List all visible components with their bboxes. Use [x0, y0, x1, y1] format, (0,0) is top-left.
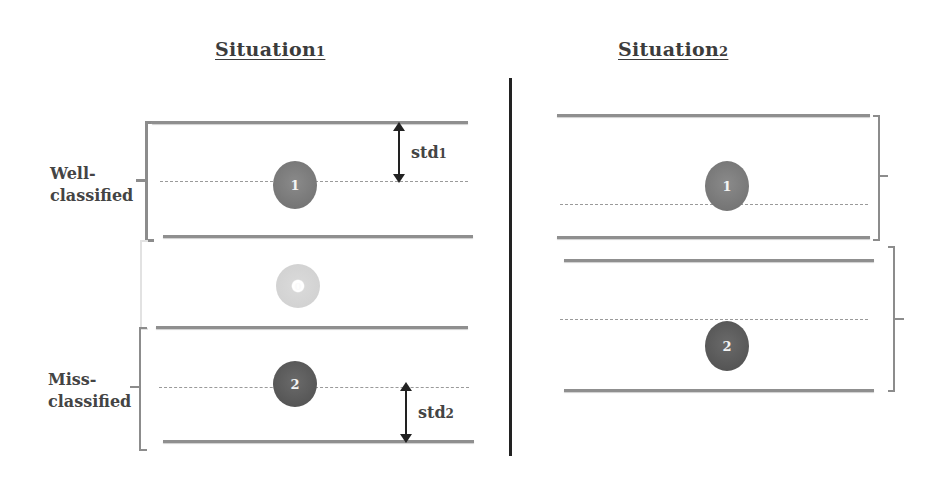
miss-classified-line2: classified — [48, 391, 131, 413]
s2-cluster1-bracket — [873, 115, 880, 241]
s2-cluster2-mean-line — [560, 319, 868, 320]
s1-cluster-1-circle: 1 — [273, 161, 317, 209]
std2-text: std — [418, 403, 446, 422]
s1-cluster-1-label: 1 — [290, 178, 299, 193]
s2-cluster2-lower-bound — [564, 389, 874, 392]
s2-cluster1-bracket-tick — [880, 175, 888, 177]
situation2-title-text: Situation — [618, 38, 719, 60]
std1-sub: 1 — [439, 147, 447, 161]
s2-cluster-2-label: 2 — [722, 339, 731, 354]
std2-arrow-down-head — [400, 434, 412, 443]
miss-classified-label: Miss- classified — [48, 369, 131, 413]
std2-arrow — [405, 386, 407, 440]
s1-cluster-0-label: 0 — [295, 281, 302, 292]
s2-cluster1-upper-bound — [557, 114, 870, 117]
s1-cluster1-upper-bound — [152, 121, 468, 124]
s2-cluster-2-circle: 2 — [705, 321, 749, 371]
well-classified-line1: Well- — [50, 163, 133, 185]
std1-arrow-down-head — [393, 174, 405, 183]
situation1-title-sub: 1 — [316, 44, 325, 59]
situation1-title: Situation1 — [215, 38, 325, 60]
s1-cluster-2-circle: 2 — [273, 361, 317, 407]
std2-arrow-up-head — [400, 382, 412, 391]
std1-label: std1 — [411, 143, 447, 162]
well-classified-label: Well- classified — [50, 163, 133, 207]
std2-sub: 2 — [446, 407, 454, 421]
s1-cluster-2-label: 2 — [290, 377, 299, 392]
s2-cluster2-bracket — [888, 246, 895, 392]
middle-bracket — [140, 240, 148, 330]
s1-cluster2-lower-bound — [163, 440, 474, 443]
s1-cluster1-lower-bound — [163, 235, 473, 238]
std1-arrow-up-head — [393, 122, 405, 131]
miss-classified-bracket-tick — [130, 386, 139, 388]
miss-classified-bracket — [139, 327, 147, 451]
s2-cluster2-upper-bound — [564, 259, 874, 262]
well-classified-bracket — [145, 121, 154, 242]
well-classified-bracket-tick — [136, 179, 145, 182]
center-divider — [509, 78, 512, 456]
s2-cluster1-lower-bound — [557, 236, 870, 239]
s2-cluster-1-circle: 1 — [705, 161, 749, 211]
well-classified-line2: classified — [50, 185, 133, 207]
std1-arrow — [398, 126, 400, 180]
miss-classified-line1: Miss- — [48, 369, 131, 391]
situation2-title-sub: 2 — [719, 44, 728, 59]
s1-cluster-0-circle: 0 — [276, 264, 320, 308]
situation2-title: Situation2 — [618, 38, 728, 60]
s1-cluster2-upper-bound — [156, 326, 468, 329]
s2-cluster-1-label: 1 — [722, 179, 731, 194]
situation1-title-text: Situation — [215, 38, 316, 60]
std1-text: std — [411, 143, 439, 162]
s2-cluster2-bracket-tick — [895, 318, 904, 320]
std2-label: std2 — [418, 403, 454, 422]
